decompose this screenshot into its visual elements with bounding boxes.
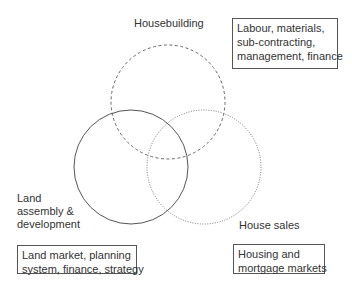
house-sales-label: House sales bbox=[239, 219, 300, 232]
house-sales-circle bbox=[147, 110, 261, 224]
land-label: Land assembly & development bbox=[17, 192, 80, 231]
housebuilding-label: Housebuilding bbox=[134, 17, 204, 30]
land-label-line: development bbox=[17, 218, 80, 231]
box-line: mortgage markets bbox=[238, 261, 320, 275]
housebuilding-factors-box: Labour, materials, sub-contracting, mana… bbox=[232, 18, 338, 69]
land-label-line: assembly & bbox=[17, 205, 80, 218]
sales-factors-box: Housing and mortgage markets bbox=[233, 244, 325, 274]
box-line: sub-contracting, bbox=[237, 35, 333, 49]
land-label-line: Land bbox=[17, 192, 80, 205]
box-line: Labour, materials, bbox=[237, 21, 333, 35]
land-factors-box: Land market, planning system, finance, s… bbox=[17, 245, 137, 274]
land-circle bbox=[74, 110, 188, 224]
housebuilding-circle bbox=[111, 45, 225, 159]
box-line: Housing and bbox=[238, 247, 320, 261]
box-line: management, finance bbox=[237, 49, 333, 63]
box-line: system, finance, strategy bbox=[22, 262, 132, 276]
box-line: Land market, planning bbox=[22, 248, 132, 262]
